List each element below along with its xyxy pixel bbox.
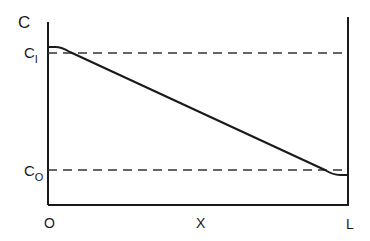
concentration-curve	[48, 47, 348, 175]
x-origin-label: O	[44, 215, 55, 231]
y-axis-label: C	[18, 13, 30, 32]
c0-label: CO	[24, 162, 44, 183]
c1-label: CI	[24, 44, 38, 65]
x-end-label: L	[346, 216, 354, 232]
x-axis-label: X	[196, 215, 206, 231]
diagram-canvas: C CI CO O X L	[0, 0, 370, 241]
